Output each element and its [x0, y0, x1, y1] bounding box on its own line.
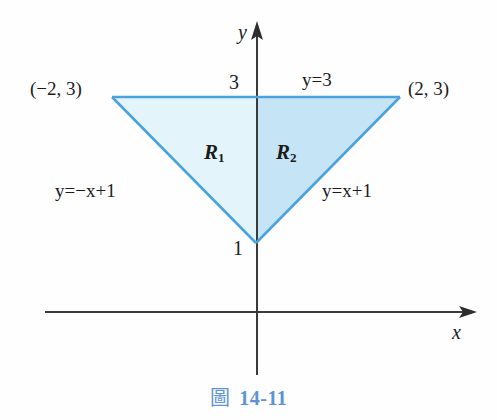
vertex-label-right: (2, 3) [408, 79, 449, 98]
figure-container: y x 3 1 (−2, 3) (2, 3) y=3 y=−x+1 y=x+1 … [0, 0, 497, 420]
figure-caption-symbol: 圖 [210, 386, 231, 410]
region-label-r1-sub: 1 [218, 150, 225, 165]
figure-caption-number: 14-11 [239, 387, 287, 409]
region-label-r2-name: R [276, 140, 290, 164]
equation-label-left: y=−x+1 [55, 181, 116, 200]
figure-caption: 圖14-11 [0, 382, 497, 411]
equation-label-right: y=x+1 [322, 181, 372, 200]
y-axis-label: y [238, 22, 247, 42]
y-tick-label-1: 1 [233, 238, 243, 258]
y-tick-label-3: 3 [229, 72, 239, 92]
region-label-r1-name: R [204, 140, 218, 164]
region-label-r1: R1 [204, 142, 225, 164]
figure-drawing [0, 0, 497, 420]
region-label-r2: R2 [276, 142, 297, 164]
equation-label-top: y=3 [302, 70, 332, 89]
vertex-label-left: (−2, 3) [30, 79, 82, 98]
x-axis-label: x [452, 322, 461, 342]
region-label-r2-sub: 2 [290, 150, 297, 165]
